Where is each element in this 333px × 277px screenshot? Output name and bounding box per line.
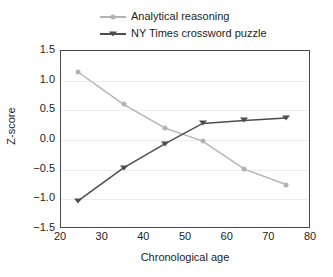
- x-tick-label: 60: [212, 230, 242, 242]
- x-axis-title: Chronological age: [60, 251, 310, 263]
- data-point: [161, 141, 169, 146]
- y-tick-label: 0.5: [0, 102, 55, 114]
- legend-symbol-triangle-icon: [109, 31, 117, 36]
- chart-figure: Analytical reasoning NY Times crossword …: [0, 0, 333, 277]
- x-tick-label: 40: [128, 230, 158, 242]
- data-point: [74, 199, 82, 204]
- data-point: [75, 69, 80, 74]
- data-markers: [61, 51, 309, 227]
- plot-area: [60, 50, 310, 228]
- y-tick-label: 1.0: [0, 73, 55, 85]
- x-tick-label: 50: [170, 230, 200, 242]
- data-point: [240, 118, 248, 123]
- x-tick-label: 70: [253, 230, 283, 242]
- chart-legend: Analytical reasoning NY Times crossword …: [100, 8, 330, 42]
- legend-marker-triangle-icon: [100, 28, 126, 40]
- legend-label-series-2: NY Times crossword puzzle: [131, 27, 267, 40]
- data-point: [200, 139, 205, 144]
- y-tick-label: −0.5: [0, 162, 55, 174]
- legend-item-nyt-crossword: NY Times crossword puzzle: [100, 25, 330, 42]
- y-tick-label: −1.0: [0, 191, 55, 203]
- data-point: [242, 167, 247, 172]
- legend-marker-circle-icon: [100, 11, 126, 23]
- y-tick-label: 0.0: [0, 132, 55, 144]
- legend-symbol-circle-icon: [111, 14, 116, 19]
- data-point: [199, 121, 207, 126]
- data-point: [120, 165, 128, 170]
- x-tick-label: 80: [295, 230, 325, 242]
- x-tick-label: 30: [87, 230, 117, 242]
- legend-label-series-1: Analytical reasoning: [131, 10, 229, 23]
- data-point: [121, 102, 126, 107]
- y-tick-label: 1.5: [0, 43, 55, 55]
- data-point: [163, 126, 168, 131]
- x-tick-label: 20: [45, 230, 75, 242]
- legend-item-analytical-reasoning: Analytical reasoning: [100, 8, 330, 25]
- data-point: [284, 182, 289, 187]
- data-point: [282, 116, 290, 121]
